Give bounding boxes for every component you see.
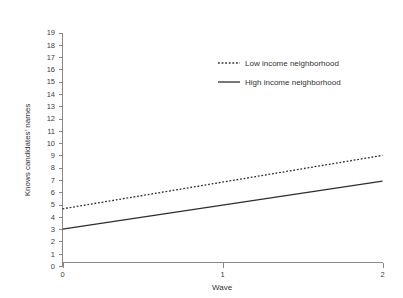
y-tick-label: 1 [51, 250, 55, 259]
y-tick-label: 10 [47, 139, 55, 148]
x-axis-ticks: 012 [60, 263, 384, 280]
y-tick-label: 17 [47, 53, 55, 62]
y-axis-ticks: 012345678910111213141516171819 [47, 28, 63, 270]
y-tick-label: 8 [51, 163, 55, 172]
y-tick-label: 5 [51, 200, 55, 209]
y-tick-label: 9 [51, 151, 55, 160]
chart-figure: 012345678910111213141516171819 012 Knows… [0, 0, 403, 298]
y-tick-label: 19 [47, 28, 55, 37]
y-tick-label: 13 [47, 102, 55, 111]
legend-label: High income neighborhood [245, 78, 341, 87]
data-series-group [63, 155, 383, 229]
x-tick-label: 1 [220, 270, 224, 279]
x-axis-title: Wave [212, 283, 233, 292]
y-tick-label: 11 [47, 127, 55, 136]
y-tick-label: 16 [47, 65, 55, 74]
series-line-solid [63, 181, 383, 229]
y-tick-label: 7 [51, 176, 55, 185]
y-tick-label: 4 [51, 213, 55, 222]
x-tick-label: 0 [60, 270, 64, 279]
y-tick-label: 15 [47, 77, 55, 86]
x-tick-label: 2 [380, 270, 384, 279]
y-axis-title: Knows candidates' names [23, 104, 32, 197]
y-tick-label: 14 [47, 90, 55, 99]
line-chart-canvas: 012345678910111213141516171819 012 Knows… [0, 0, 403, 298]
legend-label: Low income neighborhood [245, 59, 339, 68]
y-tick-label: 0 [51, 262, 55, 271]
y-tick-label: 2 [51, 237, 55, 246]
series-line-dotted [63, 155, 383, 208]
y-tick-label: 3 [51, 225, 55, 234]
y-tick-label: 12 [47, 114, 55, 123]
y-tick-label: 18 [47, 41, 55, 50]
y-tick-label: 6 [51, 188, 55, 197]
chart-legend: Low income neighborhoodHigh income neigh… [218, 59, 341, 87]
